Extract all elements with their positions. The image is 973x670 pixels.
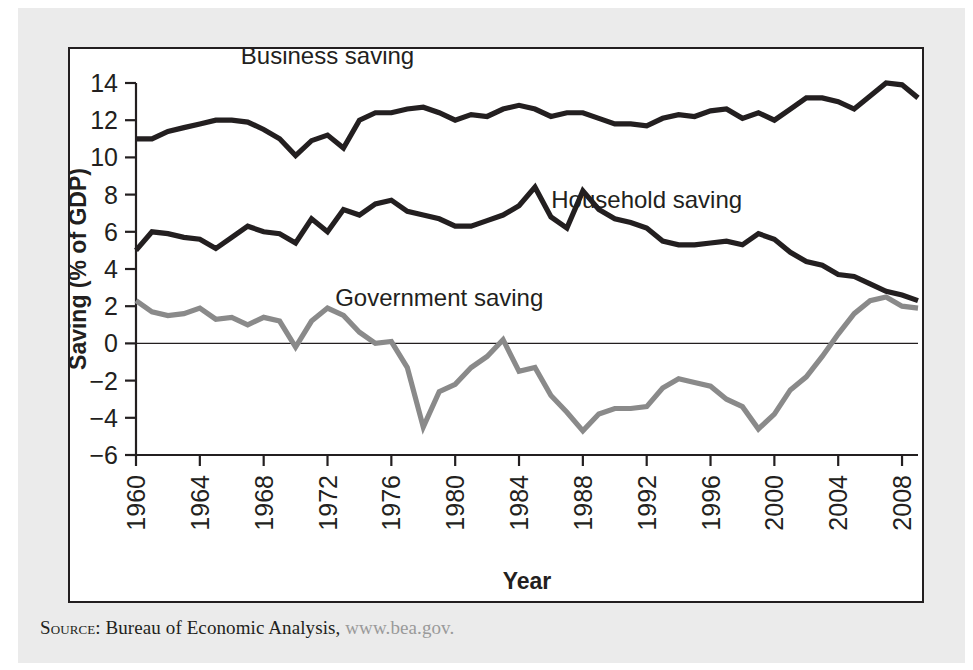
series-line bbox=[136, 297, 918, 431]
x-axis-group: 1960196419681972197619801984198819921996… bbox=[122, 455, 918, 531]
x-tick-label: 1968 bbox=[250, 475, 278, 531]
source-url: www.bea.gov. bbox=[345, 617, 454, 638]
y-tick-label: −4 bbox=[89, 404, 118, 432]
y-axis-ticks bbox=[125, 83, 136, 455]
y-axis-title: Saving (% of GDP) bbox=[68, 168, 91, 370]
y-tick-label: 2 bbox=[104, 292, 118, 320]
y-axis-tick-labels: −6−4−202468101214 bbox=[89, 69, 118, 469]
x-axis-title: Year bbox=[503, 568, 552, 594]
x-tick-label: 1980 bbox=[441, 475, 469, 531]
y-axis-group: −6−4−202468101214 bbox=[89, 69, 136, 469]
source-text: Bureau of Economic Analysis, bbox=[101, 617, 346, 638]
y-tick-label: −6 bbox=[89, 441, 118, 469]
x-tick-label: 2000 bbox=[760, 475, 788, 531]
y-tick-label: 14 bbox=[90, 69, 118, 97]
y-tick-label: 0 bbox=[104, 329, 118, 357]
x-tick-label: 1992 bbox=[633, 475, 661, 531]
saving-line-chart: −6−4−202468101214 1960196419681972197619… bbox=[68, 47, 924, 603]
series-label: Government saving bbox=[335, 284, 543, 311]
x-axis-tick-labels: 1960196419681972197619801984198819921996… bbox=[122, 475, 916, 531]
series-annotation-labels: Business savingHousehold savingGovernmen… bbox=[241, 47, 742, 311]
x-tick-label: 1976 bbox=[377, 475, 405, 531]
x-tick-label: 1960 bbox=[122, 475, 150, 531]
y-tick-label: 12 bbox=[90, 106, 118, 134]
series-label: Household saving bbox=[551, 186, 742, 213]
x-tick-label: 2004 bbox=[824, 475, 852, 531]
y-tick-label: −2 bbox=[89, 367, 118, 395]
source-label: Source: bbox=[40, 617, 101, 638]
figure-container: −6−4−202468101214 1960196419681972197619… bbox=[0, 0, 973, 670]
source-note: Source: Bureau of Economic Analysis, www… bbox=[40, 617, 454, 639]
y-tick-label: 10 bbox=[90, 143, 118, 171]
x-tick-label: 1988 bbox=[569, 475, 597, 531]
y-tick-label: 6 bbox=[104, 218, 118, 246]
series-label: Business saving bbox=[241, 47, 414, 69]
y-tick-label: 4 bbox=[104, 255, 118, 283]
series-line bbox=[136, 83, 918, 156]
x-tick-label: 1964 bbox=[186, 475, 214, 531]
data-series-group bbox=[136, 83, 918, 431]
y-tick-label: 8 bbox=[104, 181, 118, 209]
x-axis-ticks bbox=[136, 455, 902, 466]
x-tick-label: 1984 bbox=[505, 475, 533, 531]
x-tick-label: 2008 bbox=[888, 475, 916, 531]
x-tick-label: 1996 bbox=[697, 475, 725, 531]
x-tick-label: 1972 bbox=[314, 475, 342, 531]
